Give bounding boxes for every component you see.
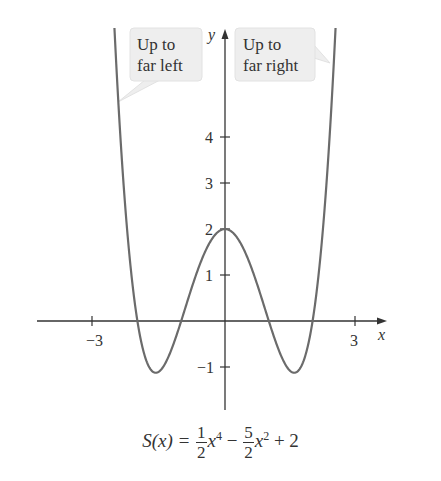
x-axis-arrow-icon [377, 318, 387, 325]
function-formula: S(x) = 12x4 − 52x2 + 2 [0, 424, 441, 461]
formula-minus: − [227, 430, 238, 451]
callout-right-line1: Up to [243, 35, 281, 54]
formula-tail: + 2 [274, 430, 299, 451]
fraction-1: 12 [196, 424, 207, 461]
callout-left-line2: far left [137, 56, 183, 75]
formula-lhs: S(x) = [142, 430, 190, 451]
callout-right-line2: far right [243, 56, 299, 75]
y-axis: 4 3 2 1 −1 y [197, 26, 230, 410]
callout-left-line1: Up to [137, 35, 175, 54]
callout-left: Up to far left [118, 28, 202, 102]
term1-exp: 4 [216, 429, 222, 443]
term1-var: x [208, 430, 216, 451]
x-tick-label-3: 3 [350, 332, 358, 349]
x-axis-label: x [377, 326, 385, 343]
y-tick-label-4: 4 [205, 129, 213, 146]
y-tick-label-3: 3 [205, 175, 213, 192]
x-axis: −3 3 x [37, 316, 387, 349]
fraction-2: 52 [243, 424, 254, 461]
function-graph: Up to far left Up to far right −3 3 x 4 … [0, 0, 441, 481]
y-axis-arrow-icon [222, 29, 229, 39]
term2-exp: 2 [263, 429, 269, 443]
y-tick-label-neg1: −1 [197, 359, 214, 376]
y-axis-label: y [206, 26, 216, 44]
term2-var: x [255, 430, 263, 451]
y-tick-label-2: 2 [205, 221, 213, 238]
x-tick-label-neg3: −3 [86, 332, 103, 349]
y-tick-label-1: 1 [205, 267, 213, 284]
callout-right: Up to far right [235, 28, 330, 81]
